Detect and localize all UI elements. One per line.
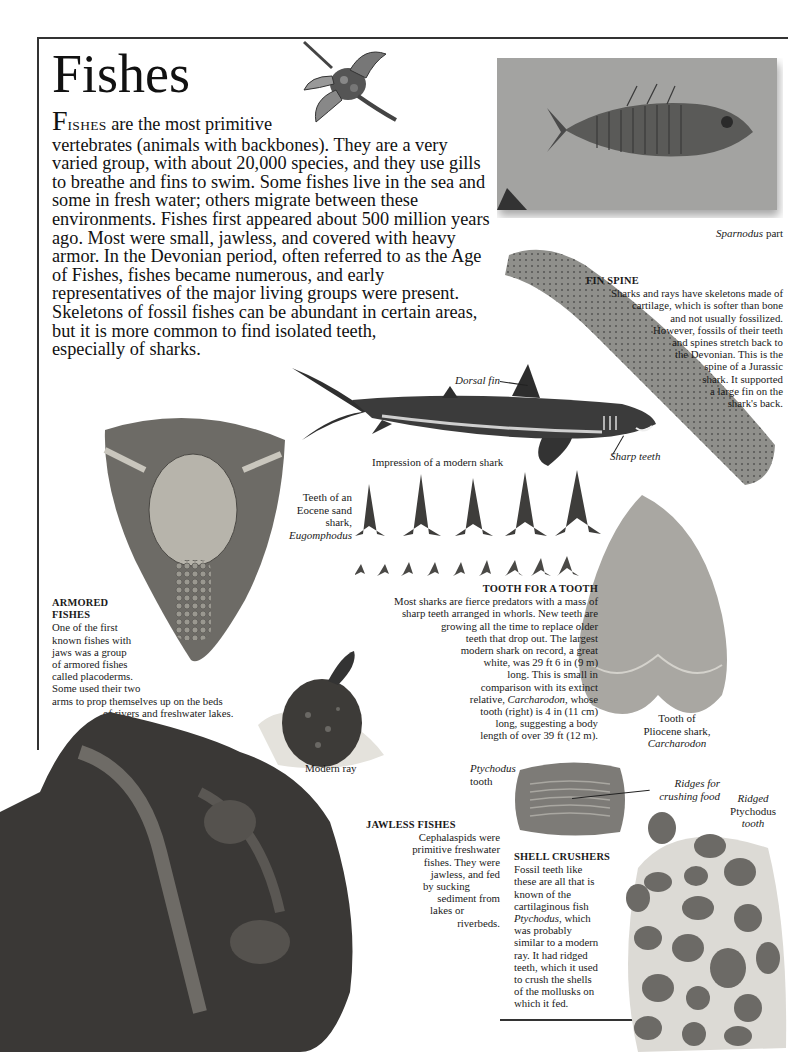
sparnodus-fossil — [497, 58, 783, 218]
drop-cap: F — [52, 105, 68, 136]
intro-paragraph: FISHES are the most primitive vertebrate… — [52, 112, 492, 359]
label-line: Ridges for — [642, 777, 720, 790]
small-caps-text: ISHES — [68, 118, 107, 133]
left-rule — [37, 37, 39, 750]
caption-line: One of the first — [52, 621, 312, 633]
label-line: Ridged — [720, 792, 786, 805]
label-line: crushing food — [642, 790, 720, 803]
label-line: tooth — [470, 775, 516, 788]
ridges-label: Ridges for crushing food — [642, 777, 720, 802]
caption-line: known fishes with — [52, 634, 312, 646]
shark-impression-label: Impression of a modern shark — [372, 456, 503, 469]
caption-line: jawless, and fed — [360, 868, 500, 880]
ptychodus-tooth — [510, 760, 630, 840]
label-line: Pliocene shark, — [622, 725, 732, 738]
caption-line: and spines stretch back to — [550, 336, 783, 348]
caption-line: cartilage, which is softer than bone — [550, 299, 783, 311]
label-line: Teeth of an — [268, 491, 352, 504]
caption-line: the Devonian. This is the — [550, 348, 783, 360]
page: Fishes FISHES are the most primitive ver… — [0, 0, 788, 1052]
armored-heading: ARMORED — [52, 597, 312, 609]
caption-line: sediment from — [360, 892, 500, 904]
caption-line: sharp teeth arranged in whorls. New teet… — [330, 607, 598, 619]
label-line: Tooth of — [622, 712, 732, 725]
label-line: Carcharodon — [622, 737, 732, 750]
caption-line: lakes or — [360, 904, 500, 916]
jawless-heading: JAWLESS FISHES — [360, 819, 500, 831]
carcharodon-label: Tooth of Pliocene shark, Carcharodon — [622, 712, 732, 750]
ptychodus-tooth-label: Ptychodus tooth — [470, 762, 516, 787]
text: relative, — [470, 693, 508, 705]
caption-line: primitive freshwater — [360, 843, 500, 855]
page-title: Fishes — [52, 44, 190, 104]
caption-line: However, fossils of their teeth — [550, 324, 783, 336]
genus-name: Carcharodon — [508, 693, 565, 705]
label-line: Ptychodus — [470, 762, 516, 775]
genus-name: Ptychodus — [514, 912, 559, 924]
sharp-teeth-label: Sharp teeth — [610, 450, 660, 463]
caption-line: by sucking — [360, 880, 500, 892]
sparnodus-caption: Sparnodus part — [600, 227, 783, 240]
label-line: shark, — [268, 516, 352, 529]
caption-line: fishes. They were — [360, 856, 500, 868]
text: , whose — [565, 693, 598, 705]
ptychodus-teeth-slab — [618, 808, 788, 1052]
sparnodus-name: Sparnodus — [716, 227, 763, 239]
caption-line: Most sharks are fierce predators with a … — [330, 595, 598, 607]
caption-line: Cephalaspids were — [360, 831, 500, 843]
intro-last-line: especially of sharks. — [52, 339, 201, 359]
caption-line: and not usually fossilized. — [550, 312, 783, 324]
caption-line: riverbeds. — [360, 917, 500, 929]
tooth-caption-heading: TOOTH FOR A TOOTH — [330, 583, 598, 595]
caption-line: growing all the time to replace older — [330, 620, 598, 632]
intro-first-line: are the most primitive — [107, 114, 273, 134]
eocene-teeth-label: Teeth of an Eocene sand shark, Eugomphod… — [268, 491, 352, 541]
jawless-fishes-caption: JAWLESS FISHES Cephalaspids were primiti… — [360, 819, 500, 929]
top-rule — [37, 37, 788, 39]
fin-spine-heading: FIN SPINE — [550, 275, 783, 287]
dorsal-fin-label: Dorsal fin — [440, 374, 500, 387]
caption-line: teeth that drop out. The largest — [330, 632, 598, 644]
label-line: Eocene sand — [268, 504, 352, 517]
intro-body: vertebrates (animals with backbones). Th… — [52, 135, 490, 341]
armored-heading: FISHES — [52, 609, 312, 621]
label-line: Eugomphodus — [268, 529, 352, 542]
text: , which — [559, 912, 591, 924]
caption-line: Sharks and rays have skeletons made of — [550, 287, 783, 299]
sparnodus-part-text: part — [763, 227, 783, 239]
cephalaspid-fossil-slab — [0, 712, 365, 1052]
